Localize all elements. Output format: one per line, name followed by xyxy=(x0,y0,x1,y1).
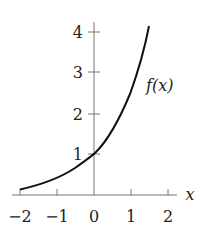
y-tick-label: 2 xyxy=(73,105,83,124)
x-tick-label: 0 xyxy=(89,207,99,226)
y-tick-label: 3 xyxy=(73,63,83,82)
y-tick-label: 4 xyxy=(73,23,83,42)
x-tick-label: −1 xyxy=(45,207,69,226)
function-label: f(x) xyxy=(145,76,173,95)
x-tick-label: −2 xyxy=(8,207,32,226)
x-tick-label: 1 xyxy=(126,207,136,226)
chart: −2 −1 0 1 2 x 1 2 3 4 f(x) xyxy=(0,0,204,238)
x-axis: −2 −1 0 1 2 x xyxy=(8,185,194,226)
y-tick-label: 1 xyxy=(73,145,83,164)
x-axis-label: x xyxy=(185,185,194,204)
x-tick-label: 2 xyxy=(163,207,173,226)
function-curve xyxy=(20,26,149,190)
y-axis: 1 2 3 4 xyxy=(73,22,100,195)
